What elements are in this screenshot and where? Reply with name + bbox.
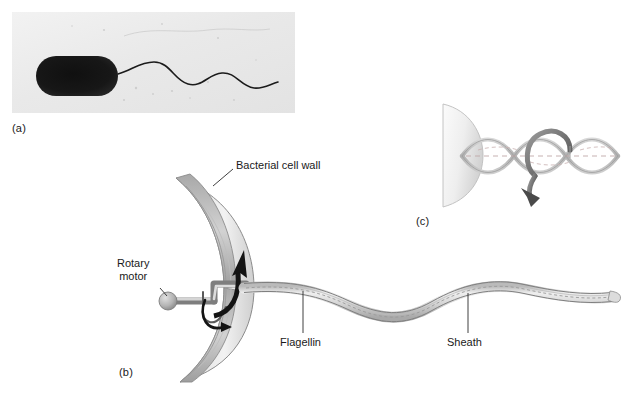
panel-c-diagram <box>443 104 618 207</box>
label-rotary-motor-line2: motor <box>117 270 149 283</box>
bacterial-flagellum-figure: (a) <box>0 0 635 399</box>
label-flagellin: Flagellin <box>280 336 321 349</box>
rotary-motor-knob <box>159 292 177 310</box>
label-bacterial-cell-wall: Bacterial cell wall <box>236 159 320 172</box>
flagellum-cut-tip <box>608 291 621 302</box>
label-sheath: Sheath <box>447 336 482 349</box>
panel-c-label: (c) <box>416 215 429 227</box>
flagellum-sheathed-filament <box>244 282 621 322</box>
bacterial-cell-wall-shape <box>176 174 254 382</box>
leader-bacterial-cell-wall <box>213 169 233 186</box>
label-rotary-motor-line1: Rotary <box>117 257 149 270</box>
panel-b-label: (b) <box>119 366 133 378</box>
label-rotary-motor: Rotary motor <box>117 257 149 283</box>
